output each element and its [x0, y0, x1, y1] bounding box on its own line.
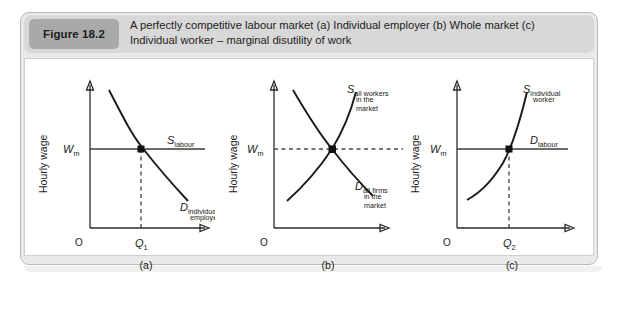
- wage-tick-a: Wm: [63, 143, 79, 158]
- origin-label-c: O: [443, 237, 451, 248]
- supply-label-b-line2: in the: [356, 95, 374, 104]
- equilibrium-point-a: [138, 146, 145, 153]
- demand-label-c: Dlabour: [530, 134, 559, 149]
- wage-tick-b: Wm: [247, 143, 263, 158]
- demand-label-a-line2: employer: [190, 213, 215, 222]
- supply-label-a: Slabour: [167, 134, 195, 149]
- figure-screenshot: Figure 18.2 A perfectly competitive labo…: [0, 0, 635, 319]
- figure-number-badge: Figure 18.2: [29, 19, 119, 49]
- chart-svg-c: Hourly wage Wm O Q2 Sindividual worker D…: [405, 59, 595, 257]
- demand-label-b-line2: in the: [364, 192, 382, 201]
- y-axis-title-a: Hourly wage: [37, 134, 49, 193]
- y-axis-title-c: Hourly wage: [409, 134, 421, 193]
- y-axis-title-b: Hourly wage: [227, 134, 239, 193]
- equilibrium-point-b: [329, 146, 337, 154]
- chart-svg-a: Hourly wage Wm O Q1 Slabour Dindividual …: [25, 59, 215, 257]
- chart-svg-b: Hourly wage Wm O Sall workers in the mar…: [215, 59, 405, 257]
- chart-panel-c: Hourly wage Wm O Q2 Sindividual worker D…: [405, 59, 595, 257]
- figure-plot-area: Hourly wage Wm O Q1 Slabour Dindividual …: [24, 58, 594, 256]
- figure-number-label: Figure 18.2: [43, 28, 105, 40]
- panel-caption-a: (a): [140, 259, 153, 271]
- panel-captions: (a) (b) (c): [24, 256, 594, 278]
- supply-curve-b: [287, 92, 356, 201]
- origin-label-b: O: [260, 237, 268, 248]
- wage-tick-c: Wm: [430, 143, 446, 158]
- demand-label-b-line3: market: [364, 201, 386, 210]
- supply-label-c-line2: worker: [532, 95, 555, 104]
- figure-caption: A perfectly competitive labour market (a…: [130, 18, 582, 47]
- chart-panel-a: Hourly wage Wm O Q1 Slabour Dindividual …: [25, 59, 215, 257]
- origin-label-a: O: [75, 237, 83, 248]
- supply-label-b-line3: market: [356, 104, 378, 113]
- panel-caption-b: (b): [322, 259, 335, 271]
- panel-caption-c: (c): [506, 259, 518, 271]
- equilibrium-point-c: [506, 146, 513, 153]
- supply-curve-c: [467, 92, 527, 200]
- chart-panel-b: Hourly wage Wm O Sall workers in the mar…: [215, 59, 405, 257]
